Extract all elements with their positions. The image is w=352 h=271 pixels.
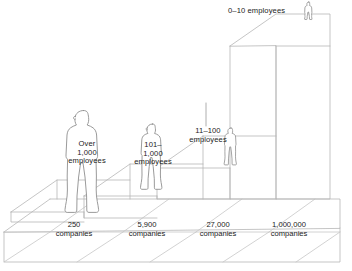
annotation-11-100-employees: 11–100 employees xyxy=(180,127,236,144)
step-4-block xyxy=(230,14,330,199)
chart-canvas: 0–10 employees 11–100 employees 101– 1,0… xyxy=(0,0,352,271)
annotation-101-1000-employees: 101– 1,000 employees xyxy=(133,141,173,167)
value-label-5900-companies: 5,900 companies xyxy=(120,221,174,238)
value-label-250-companies: 250 companies xyxy=(48,221,100,238)
value-label-1000000-companies: 1,000,000 companies xyxy=(256,221,322,238)
annotation-over-1000-employees: Over 1,000 employees xyxy=(66,140,108,166)
person-silhouette-xsmall xyxy=(305,2,312,20)
step-3-block xyxy=(157,136,276,199)
annotation-0-10-employees: 0–10 employees xyxy=(228,7,285,16)
value-label-27000-companies: 27,000 companies xyxy=(190,221,246,238)
